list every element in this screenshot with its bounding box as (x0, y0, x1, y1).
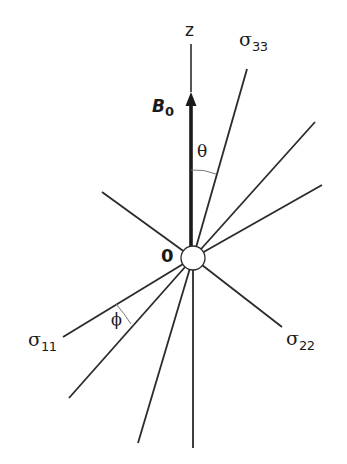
ray-lower-left-line (69, 258, 193, 398)
b0-arrowhead-icon (186, 92, 197, 106)
sigma22-axis-line (193, 258, 282, 327)
sigma11-label: σ11 (28, 330, 57, 349)
theta-label: θ (197, 143, 207, 160)
phi-label: ϕ (111, 312, 122, 328)
theta-arc (191, 170, 216, 174)
ray-upper-right-1-line (193, 122, 315, 258)
ray-upper-left-line (102, 192, 193, 258)
nmr-chemical-shift-tensor-diagram: z B0 σ33 θ 0 σ22 σ11 ϕ (0, 0, 347, 464)
sigma33-label: σ33 (239, 30, 268, 49)
sigma22-label: σ22 (286, 329, 315, 348)
b0-label: B0 (152, 98, 174, 115)
origin-circle (181, 246, 205, 270)
sigma33-axis-line (193, 69, 247, 258)
origin-label: 0 (161, 247, 174, 265)
z-axis-label: z (185, 22, 194, 39)
diagram-lines (0, 0, 347, 464)
ray-upper-right-2-line (193, 185, 322, 258)
